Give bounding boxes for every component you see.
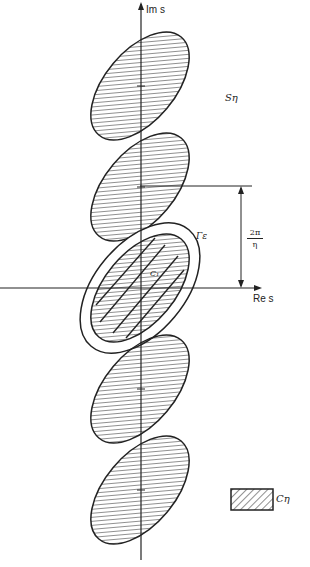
legend-swatch (231, 489, 273, 510)
legend-label: Cη (276, 494, 290, 504)
period-label: 2π η (247, 228, 263, 249)
period-denominator: η (247, 239, 263, 249)
central-set-label: C₁ (150, 270, 159, 278)
vertical-axis-label: Im s (146, 5, 165, 15)
contour-label: Γε (196, 232, 207, 241)
region-label: Sη (225, 93, 238, 103)
diagram-canvas (0, 0, 310, 567)
period-numerator: 2π (247, 228, 263, 239)
horizontal-axis-label: Re s (253, 294, 274, 304)
